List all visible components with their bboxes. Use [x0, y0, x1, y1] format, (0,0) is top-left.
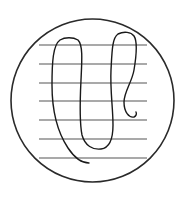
figure-canvas [0, 0, 183, 198]
diagram-svg [0, 0, 183, 198]
background [0, 0, 183, 198]
